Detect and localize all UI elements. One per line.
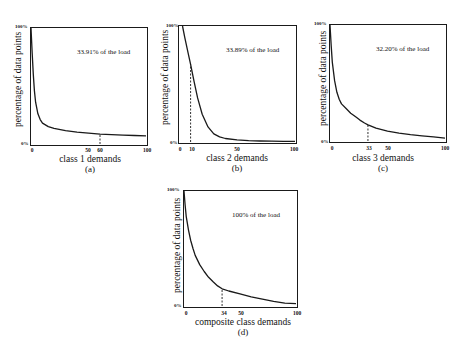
x-tick: 50 <box>385 145 391 151</box>
y-tick-min: 0% <box>21 141 29 146</box>
x-tick: 0 <box>331 145 334 151</box>
load-annotation: 33.89% of the load <box>226 46 279 54</box>
x-tick: 100 <box>293 310 301 316</box>
x-tick: 10 <box>189 146 195 152</box>
panel-label: (c) <box>378 163 388 173</box>
y-tick-max: 100% <box>15 24 28 29</box>
load-annotation: 32.20% of the load <box>376 45 429 53</box>
load-annotation: 33.91% of the load <box>77 48 130 56</box>
y-tick-min: 0% <box>170 140 178 145</box>
y-tick-max: 100% <box>166 23 179 28</box>
x-tick: 0 <box>31 147 34 153</box>
distribution-curve <box>31 28 146 136</box>
x-tick: 60 <box>97 147 103 153</box>
y-axis-label: percentage of data points <box>172 198 182 293</box>
y-axis-label: percentage of data points <box>160 30 170 125</box>
curve-svg <box>330 25 448 144</box>
x-axis-label: class 3 demands <box>352 153 414 163</box>
plot-area: 32.20% of the load <box>329 24 447 143</box>
curve-svg <box>184 191 299 309</box>
distribution-curve <box>183 26 296 141</box>
x-tick: 50 <box>85 147 91 153</box>
x-tick: 100 <box>290 146 298 152</box>
x-axis-label: composite class demands <box>195 317 291 327</box>
load-annotation: 100% of the load <box>232 211 280 219</box>
curve-svg <box>31 28 149 147</box>
distribution-curve <box>330 25 445 138</box>
panel-label: (b) <box>232 163 243 173</box>
y-tick-min: 0% <box>174 303 182 308</box>
y-tick-max: 100% <box>314 21 327 26</box>
x-tick: 50 <box>238 310 244 316</box>
x-tick: 100 <box>441 145 449 151</box>
x-tick: 0 <box>179 146 182 152</box>
curve-svg <box>179 26 298 145</box>
panel-label: (a) <box>85 164 95 174</box>
plot-area: 33.89% of the load <box>178 25 297 144</box>
x-tick: 50 <box>234 146 240 152</box>
x-tick: 34 <box>221 310 227 316</box>
x-tick: 0 <box>185 310 188 316</box>
distribution-curve <box>184 191 296 304</box>
plot-area: 33.91% of the load <box>30 27 148 146</box>
y-axis-label: percentage of data points <box>13 32 23 127</box>
y-tick-max: 100% <box>167 187 180 192</box>
x-tick: 33 <box>366 145 372 151</box>
x-axis-label: class 1 demands <box>59 154 121 164</box>
y-tick-min: 0% <box>321 139 329 144</box>
y-axis-label: percentage of data points <box>318 31 328 126</box>
plot-area: 100% of the load <box>183 190 298 308</box>
x-tick: 100 <box>143 147 151 153</box>
panel-label: (d) <box>238 327 249 337</box>
x-axis-label: class 2 demands <box>206 153 268 163</box>
